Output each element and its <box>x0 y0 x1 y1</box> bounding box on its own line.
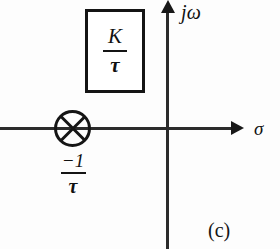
pole-location-numerator: −1 <box>62 151 84 170</box>
pole-location-fraction-bar <box>61 172 86 174</box>
gain-box: K τ <box>85 9 145 93</box>
subfigure-label: (c) <box>208 219 230 242</box>
pole-marker-circled-x-icon <box>54 110 91 147</box>
sigma-axis-arrow-icon <box>231 121 244 135</box>
s-plane-figure: σ jω K τ −1 τ (c) <box>0 0 280 249</box>
sigma-axis-line <box>0 127 238 130</box>
gain-fraction: K τ <box>88 12 142 90</box>
gain-denominator: τ <box>110 54 119 76</box>
gain-fraction-bar <box>103 50 127 52</box>
gain-numerator: K <box>108 26 122 48</box>
jomega-axis-label: jω <box>181 1 201 24</box>
jomega-axis-line <box>166 6 169 249</box>
jomega-axis-arrow-icon <box>161 0 175 13</box>
pole-location-denominator: τ <box>69 176 78 196</box>
sigma-axis-label: σ <box>254 118 263 140</box>
pole-location-label: −1 τ <box>50 151 96 196</box>
